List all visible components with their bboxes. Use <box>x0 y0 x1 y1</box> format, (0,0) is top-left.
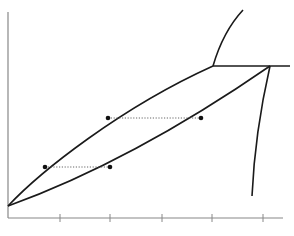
phase-diagram <box>0 0 294 236</box>
data-point <box>43 165 48 170</box>
liquidus-curve <box>8 66 213 206</box>
solidus-curve <box>8 66 270 206</box>
curves <box>8 10 290 206</box>
data-point <box>108 165 113 170</box>
solvus-curve <box>252 66 270 196</box>
data-point <box>106 116 111 121</box>
data-point <box>199 116 204 121</box>
upper-boundary-curve <box>213 10 243 66</box>
